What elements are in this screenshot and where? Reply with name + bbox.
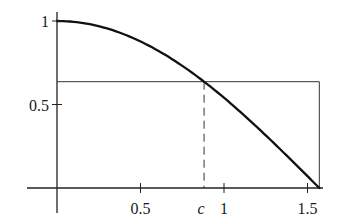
x-tick-label: 1.5 (298, 200, 318, 217)
x-tick-label: 1 (220, 200, 228, 217)
x-tick-label: 0.5 (131, 200, 151, 217)
mean-value-chart: 0.5c11.5 0.51 (0, 0, 337, 220)
y-tick-label: 0.5 (29, 97, 49, 114)
cosine-curve (57, 21, 319, 188)
mean-value-rectangle (57, 82, 319, 188)
x-tick-label: c (198, 200, 205, 217)
cosine-curve-path (57, 21, 319, 188)
y-tick-label: 1 (41, 13, 49, 30)
axes (27, 12, 323, 213)
